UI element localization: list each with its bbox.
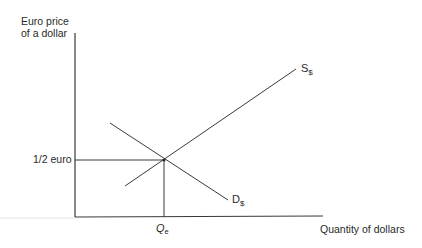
supply-label-sub: $ <box>308 68 312 77</box>
demand-curve <box>110 123 228 200</box>
x-axis-label: Quantity of dollars <box>320 223 405 235</box>
quantity-tick-sub: e <box>165 227 169 236</box>
y-axis-label: Euro price of a dollar <box>21 15 81 39</box>
supply-curve <box>125 69 296 186</box>
quantity-tick-label: Qe <box>156 222 169 238</box>
y-axis-label-line2: of a dollar <box>21 27 81 39</box>
demand-curve-label: D$ <box>232 193 244 210</box>
equilibrium-point <box>162 158 165 161</box>
y-axis-label-line1: Euro price <box>21 15 81 27</box>
demand-label-sub: $ <box>240 199 244 208</box>
demand-label-main: D <box>232 193 240 205</box>
x-axis <box>75 216 323 217</box>
quantity-tick-main: Q <box>156 222 165 234</box>
supply-curve-label: S$ <box>301 62 313 79</box>
price-tick-label: 1/2 euro <box>33 153 72 165</box>
